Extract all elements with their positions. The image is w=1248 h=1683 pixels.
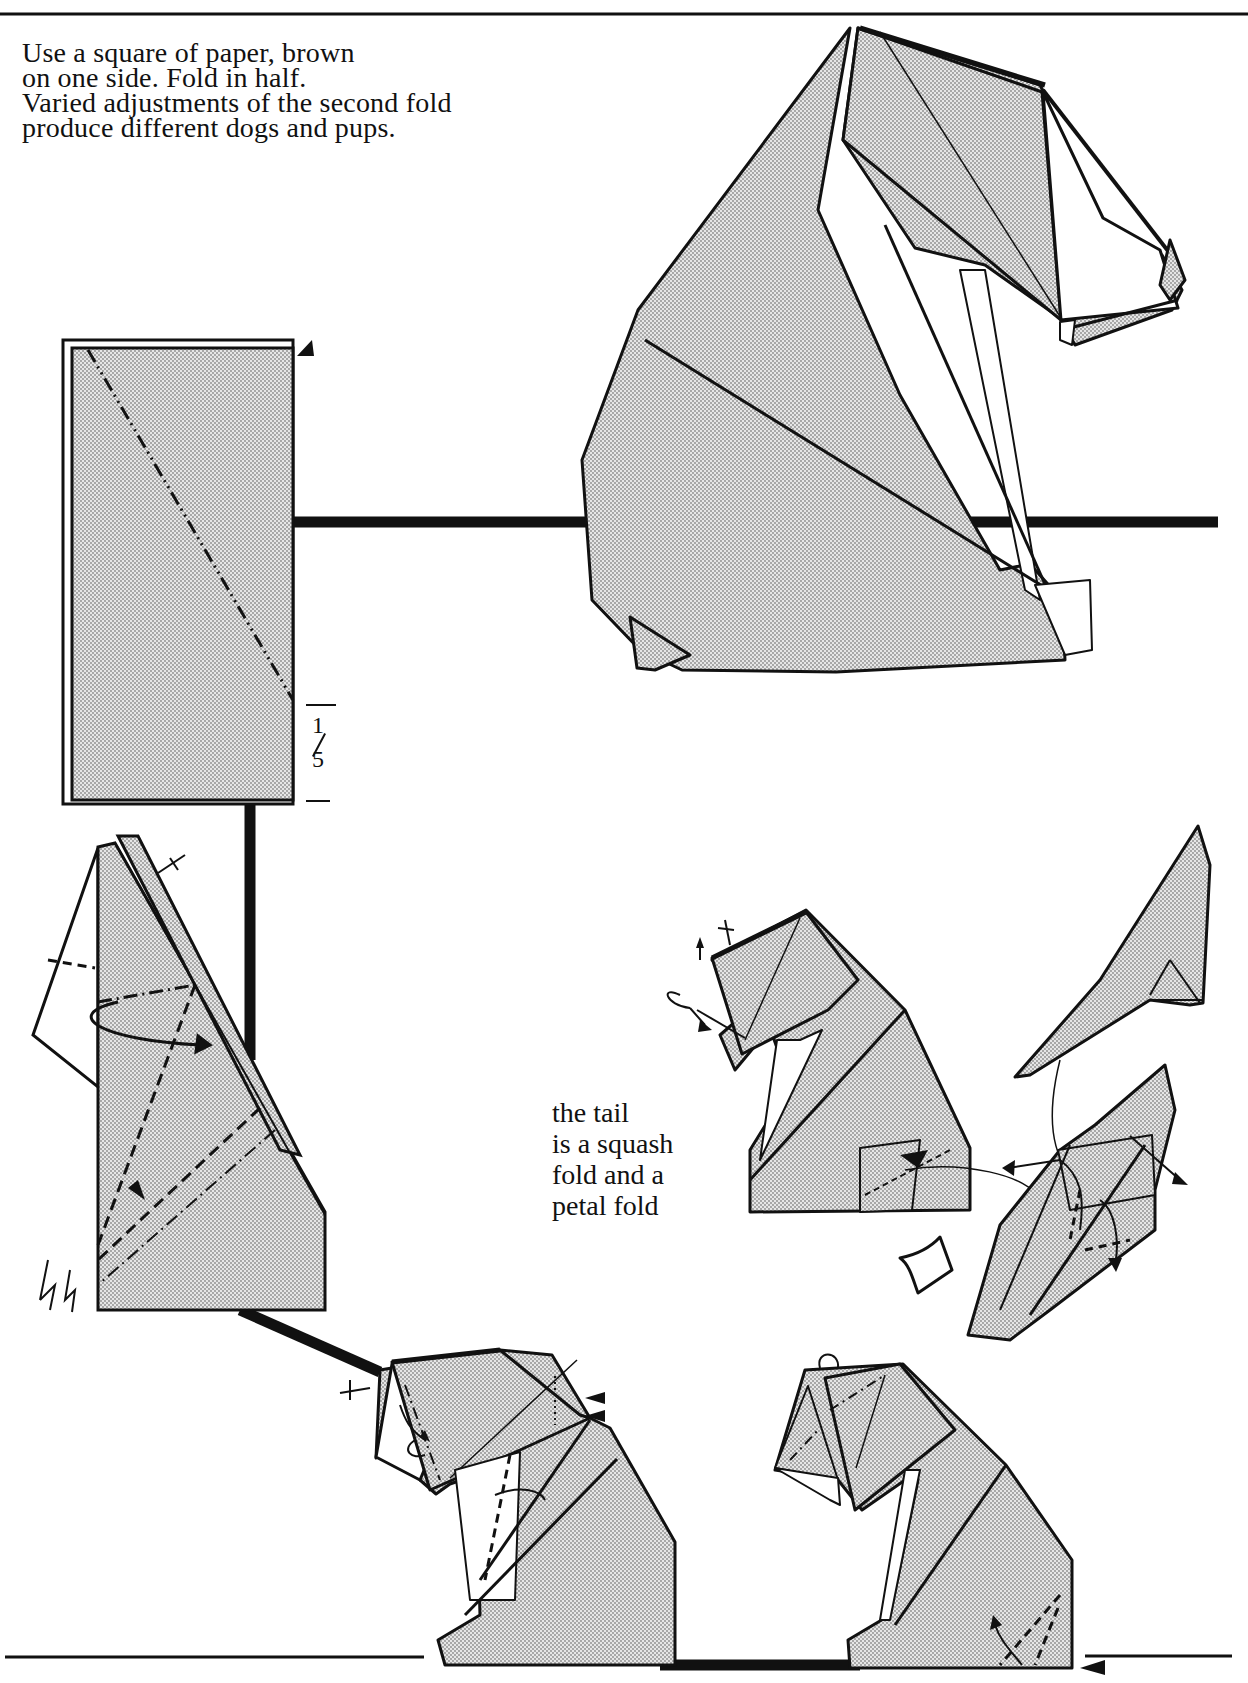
tail-note-line: is a squash: [552, 1128, 673, 1159]
tail-note-line: fold and a: [552, 1159, 673, 1190]
squash-shape: [900, 1237, 952, 1293]
step-2-diagram: [33, 836, 325, 1312]
tail-detail-diagram: [900, 826, 1210, 1340]
push-arrow-icon: [1080, 1660, 1105, 1675]
tail-note-line: petal fold: [552, 1190, 673, 1221]
fraction-label: 1 5: [306, 712, 336, 782]
step-3-diagram: [5, 1350, 675, 1665]
tail-note: the tail is a squash fold and a petal fo…: [552, 1097, 673, 1221]
origami-instruction-page: Use a square of paper, brown on one side…: [0, 0, 1248, 1683]
pleat-arrow-icon: [40, 1260, 75, 1312]
push-arrow-icon: [585, 1392, 605, 1404]
fold-arrow-icon: [297, 340, 314, 356]
rotate-arrow-icon: [668, 992, 705, 1025]
final-pup-diagram: [775, 1355, 1232, 1676]
step-4-diagram: [668, 910, 1040, 1212]
fraction-denominator: 5: [312, 746, 324, 773]
step-1-diagram: [63, 340, 336, 804]
final-dog-diagram: [582, 28, 1185, 1000]
tail-note-line: the tail: [552, 1097, 673, 1128]
step-connectors: [240, 522, 1218, 1665]
diagram-canvas: [0, 0, 1248, 1683]
